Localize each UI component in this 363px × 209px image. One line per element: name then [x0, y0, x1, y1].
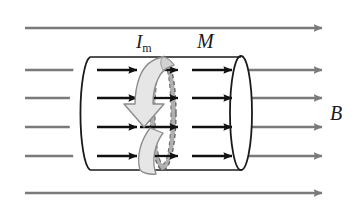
cylinder-right-face-group: [230, 56, 252, 170]
cylinder-group: [80, 57, 250, 170]
physics-figure-magnetized-cylinder: Im M B: [0, 0, 363, 209]
bound-current-label: Im: [135, 31, 152, 55]
magnetic-field-label: B: [330, 102, 342, 124]
bound-current-subscript: m: [142, 41, 152, 55]
figure-canvas: Im M B: [0, 0, 363, 209]
cylinder-right-face: [230, 56, 252, 170]
magnetization-label: M: [196, 30, 215, 52]
cylinder-body-fill: [80, 57, 250, 170]
